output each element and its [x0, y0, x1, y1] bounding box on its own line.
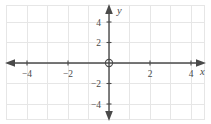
x-axis-label: x [199, 66, 205, 77]
y-tick-label-neg2: −2 [91, 79, 101, 89]
x-tick-label-2: 2 [148, 69, 153, 79]
x-tick-label-neg4: −4 [22, 69, 32, 79]
coordinate-plane-svg: −4 −2 2 4 4 2 −2 −4 y x [0, 0, 211, 124]
y-axis-label: y [116, 5, 122, 16]
y-tick-label-4: 4 [96, 18, 101, 28]
coordinate-plane-figure: −4 −2 2 4 4 2 −2 −4 y x [0, 0, 211, 124]
y-tick-label-2: 2 [96, 38, 101, 48]
y-tick-label-neg4: −4 [91, 100, 101, 110]
x-tick-label-neg2: −2 [63, 69, 73, 79]
x-tick-label-4: 4 [189, 69, 194, 79]
